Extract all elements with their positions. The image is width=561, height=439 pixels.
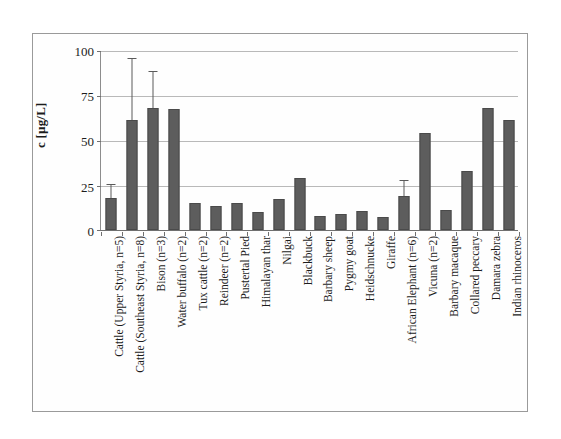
x-axis-label: Tux cattle (n=2) bbox=[198, 236, 210, 310]
x-axis-label: Cattle (Upper Styria, n=5) bbox=[114, 236, 126, 357]
bar-group bbox=[498, 51, 519, 230]
bar[interactable] bbox=[315, 216, 326, 230]
x-axis-label: Barbary sheep bbox=[323, 236, 335, 302]
bar-group bbox=[456, 51, 477, 230]
y-tick-label-75: 75 bbox=[52, 90, 94, 103]
bar-group bbox=[164, 51, 185, 230]
bar[interactable] bbox=[231, 203, 242, 230]
bar[interactable] bbox=[419, 133, 430, 230]
bar-group bbox=[247, 51, 268, 230]
bar[interactable] bbox=[336, 214, 347, 230]
y-tick-mark-0 bbox=[97, 230, 101, 231]
x-axis-label: Collared peccary bbox=[470, 236, 482, 314]
x-axis-label: Water buffalo (n=2) bbox=[177, 236, 189, 328]
bar-group bbox=[226, 51, 247, 230]
x-axis-label: Giraffe bbox=[386, 236, 398, 269]
bar[interactable] bbox=[482, 108, 493, 230]
bar[interactable] bbox=[148, 108, 159, 230]
bar[interactable] bbox=[169, 109, 180, 230]
error-bar-cap bbox=[400, 180, 409, 181]
bar-group bbox=[415, 51, 436, 230]
bar[interactable] bbox=[294, 178, 305, 230]
x-axis-label: Vicuna (n=2) bbox=[428, 236, 440, 297]
y-tick-label-100: 100 bbox=[52, 45, 94, 58]
bar[interactable] bbox=[252, 212, 263, 230]
bar-group bbox=[289, 51, 310, 230]
bar-group bbox=[373, 51, 394, 230]
bar-group bbox=[185, 51, 206, 230]
x-axis-label: Himalayan thar bbox=[261, 236, 273, 307]
error-bar bbox=[132, 59, 133, 120]
x-axis-label: Bison (n=3) bbox=[156, 236, 168, 291]
bar[interactable] bbox=[399, 196, 410, 230]
x-axis-category-labels: Cattle (Upper Styria, n=5)Cattle (Southe… bbox=[100, 236, 518, 406]
bar-group bbox=[310, 51, 331, 230]
bar-group bbox=[268, 51, 289, 230]
error-bar-cap bbox=[107, 184, 116, 185]
bar-group bbox=[101, 51, 122, 230]
y-axis-title: c [µg/L] bbox=[33, 68, 49, 148]
x-axis-label: Heidschnucke bbox=[365, 236, 377, 301]
bar-group bbox=[122, 51, 143, 230]
error-bar bbox=[404, 181, 405, 195]
error-bar bbox=[153, 72, 154, 108]
error-bar-cap bbox=[149, 71, 158, 72]
x-axis-label: Pustertal Pied bbox=[240, 236, 252, 300]
x-axis-label: Cattle (Southeast Styria, n=8) bbox=[135, 236, 147, 373]
x-axis-label: Reindeer (n=2) bbox=[219, 236, 231, 306]
bar[interactable] bbox=[273, 199, 284, 230]
x-axis-label: African Elephant (n=6) bbox=[407, 236, 419, 343]
y-tick-label-50: 50 bbox=[52, 135, 94, 148]
bar[interactable] bbox=[127, 120, 138, 230]
bar[interactable] bbox=[190, 203, 201, 230]
y-axis-tick-labels: 100 75 50 25 0 bbox=[52, 0, 94, 439]
y-tick-label-25: 25 bbox=[52, 181, 94, 194]
y-tick-label-0: 0 bbox=[52, 225, 94, 238]
x-axis-label: Indian rhinoceros bbox=[512, 236, 524, 317]
error-bar bbox=[111, 185, 112, 198]
bar[interactable] bbox=[503, 120, 514, 230]
bar-group bbox=[352, 51, 373, 230]
plot-area bbox=[100, 51, 518, 231]
bar[interactable] bbox=[357, 211, 368, 230]
bars-layer bbox=[101, 51, 518, 230]
bar[interactable] bbox=[210, 206, 221, 230]
bar-group bbox=[206, 51, 227, 230]
bar-group bbox=[331, 51, 352, 230]
bar[interactable] bbox=[106, 198, 117, 230]
bar-group bbox=[394, 51, 415, 230]
x-axis-label: Blackbuck bbox=[303, 236, 315, 285]
bar-group bbox=[477, 51, 498, 230]
bar[interactable] bbox=[461, 171, 472, 230]
error-bar-cap bbox=[128, 58, 137, 59]
x-axis-label: Barbary macaque bbox=[449, 236, 461, 317]
x-axis-label: Nilgai bbox=[282, 236, 294, 265]
x-axis-label: Damara zebra bbox=[491, 236, 503, 300]
bar[interactable] bbox=[378, 217, 389, 230]
bar-group bbox=[143, 51, 164, 230]
bar[interactable] bbox=[440, 210, 451, 230]
x-axis-label: Pygmy goat bbox=[344, 236, 356, 291]
bar-group bbox=[435, 51, 456, 230]
